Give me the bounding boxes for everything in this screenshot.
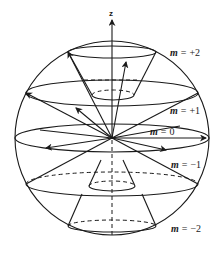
label-m-minus-2: m=−2 [171,223,201,234]
label-m-plus-1: m=+1 [170,105,200,116]
svg-text:m=0: m=0 [150,126,174,137]
svg-text:m=+2: m=+2 [170,47,200,58]
z-axis-label: z [109,9,113,18]
svg-text:m=−2: m=−2 [171,223,201,234]
label-m-plus-2: m=+2 [170,47,200,58]
svg-text:m=+1: m=+1 [170,105,200,116]
svg-text:m=−1: m=−1 [171,159,201,170]
label-m-0: m=0 [150,126,174,137]
label-m-minus-1: m=−1 [171,159,201,170]
angular-momentum-sphere-diagram: z m=+2 m=+1 m=0 m=−1 m=−2 [0,0,220,253]
